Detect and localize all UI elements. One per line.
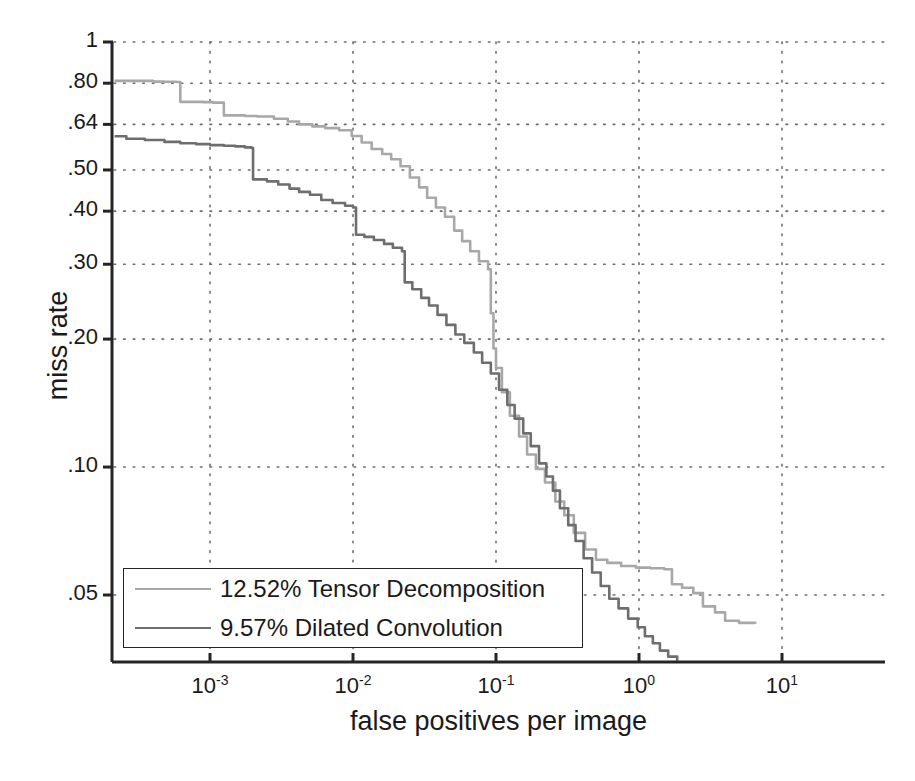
- x-tick-label: 10-2: [313, 672, 393, 699]
- y-tick-label: .80: [28, 68, 98, 94]
- legend-item-label: 12.52% Tensor Decomposition: [220, 575, 545, 603]
- x-tick-label: 101: [742, 672, 822, 699]
- legend-swatch-line: [135, 588, 211, 590]
- plot-canvas: [0, 0, 915, 781]
- legend: 12.52% Tensor Decomposition 9.57% Dilate…: [123, 568, 583, 648]
- y-tick-label: .20: [28, 324, 98, 350]
- y-tick-label: .05: [28, 580, 98, 606]
- y-tick-label: .50: [28, 155, 98, 181]
- x-tick-exponent: 1: [790, 672, 798, 688]
- chart-figure: miss rate false positives per image 1.80…: [0, 0, 915, 781]
- x-tick-mantissa: 10: [478, 673, 502, 698]
- y-tick-label: .40: [28, 196, 98, 222]
- legend-item-dilated-convolution: 9.57% Dilated Convolution: [124, 608, 582, 648]
- legend-item-label: 9.57% Dilated Convolution: [220, 614, 503, 642]
- x-tick-mantissa: 10: [623, 673, 647, 698]
- y-tick-label: .30: [28, 249, 98, 275]
- x-tick-label: 10-1: [456, 672, 536, 699]
- x-tick-exponent: -3: [216, 672, 228, 688]
- legend-item-tensor-decomposition: 12.52% Tensor Decomposition: [124, 569, 582, 609]
- x-tick-exponent: 0: [647, 672, 655, 688]
- y-tick-label: .64: [28, 109, 98, 135]
- x-tick-exponent: -1: [502, 672, 514, 688]
- legend-swatch-line: [135, 627, 211, 629]
- x-tick-label: 100: [599, 672, 679, 699]
- x-tick-label: 10-3: [170, 672, 250, 699]
- x-tick-exponent: -2: [359, 672, 371, 688]
- x-tick-mantissa: 10: [335, 673, 359, 698]
- y-tick-label: 1: [28, 27, 98, 53]
- x-axis-label: false positives per image: [112, 706, 885, 737]
- y-tick-label: .10: [28, 452, 98, 478]
- x-tick-mantissa: 10: [766, 673, 790, 698]
- x-tick-mantissa: 10: [192, 673, 216, 698]
